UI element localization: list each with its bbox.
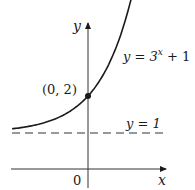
x-axis-label: x — [158, 172, 166, 188]
point-label: (0, 2) — [42, 82, 77, 97]
point-marker — [85, 93, 91, 99]
exponential-curve — [12, 0, 131, 129]
exponential-graph: y x 0 (0, 2) y = 1 y = 3x + 1 — [0, 0, 195, 190]
origin-label: 0 — [73, 173, 81, 188]
asymptote-label: y = 1 — [125, 116, 161, 131]
curve-label: y = 3x + 1 — [122, 47, 190, 64]
y-axis-label: y — [72, 18, 82, 34]
